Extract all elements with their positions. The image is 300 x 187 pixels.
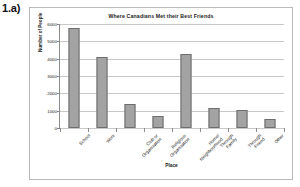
x-tick-mark (144, 128, 145, 132)
x-tick-label: Other (273, 133, 285, 145)
y-axis-title: Number of People (38, 13, 43, 52)
bar-slot: Club orOrganization (116, 24, 144, 128)
x-axis-title: Place (59, 163, 284, 168)
bar (209, 108, 220, 128)
bar (153, 116, 164, 128)
bar (125, 104, 136, 128)
bar (237, 110, 248, 128)
x-tick-mark (60, 128, 61, 132)
chart-frame: Where Canadians Met their Best Friends N… (29, 7, 293, 180)
bar (97, 57, 108, 128)
bar (69, 28, 80, 128)
bar-slot: Work (88, 24, 116, 128)
x-tick-label: School (78, 133, 91, 146)
bar-slot: Other (256, 24, 284, 128)
x-tick-mark (200, 128, 201, 132)
bar-slot: ThroughFriend (228, 24, 256, 128)
question-label: 1.a) (2, 2, 20, 14)
y-tick-label: 3000 (47, 74, 57, 79)
x-tick-label: Home/Neighbourhood (195, 133, 224, 162)
x-tick-mark (228, 128, 229, 132)
x-tick-mark (172, 128, 173, 132)
bar (181, 54, 192, 128)
x-tick-mark (116, 128, 117, 132)
chart-title: Where Canadians Met their Best Friends (30, 13, 292, 19)
y-tick-label: 6000 (47, 22, 57, 27)
plot-area: 0100020003000400050006000 SchoolWorkClub… (59, 24, 284, 129)
y-tick-label: 5000 (47, 39, 57, 44)
bar-slot: ReligiousOrganization (144, 24, 172, 128)
y-tick-label: 2000 (47, 91, 57, 96)
y-tick-label: 0 (55, 126, 57, 131)
x-tick-label: ThroughFriend (247, 133, 266, 152)
x-tick-mark (88, 128, 89, 132)
y-tick-label: 4000 (47, 56, 57, 61)
bar-slot: Home/Neighbourhood (172, 24, 200, 128)
y-tick-label: 1000 (47, 108, 57, 113)
x-tick-label: ReligiousOrganization (165, 133, 190, 158)
x-tick-mark (284, 128, 285, 132)
bar (265, 119, 276, 128)
bar-slot: School (60, 24, 88, 128)
x-tick-label: Club orOrganization (137, 133, 162, 158)
bar-slot: ThroughFamily (200, 24, 228, 128)
bars-layer: SchoolWorkClub orOrganizationReligiousOr… (60, 24, 284, 128)
x-tick-label: Work (105, 133, 116, 144)
x-tick-mark (256, 128, 257, 132)
x-tick-label: ThroughFamily (219, 133, 238, 152)
